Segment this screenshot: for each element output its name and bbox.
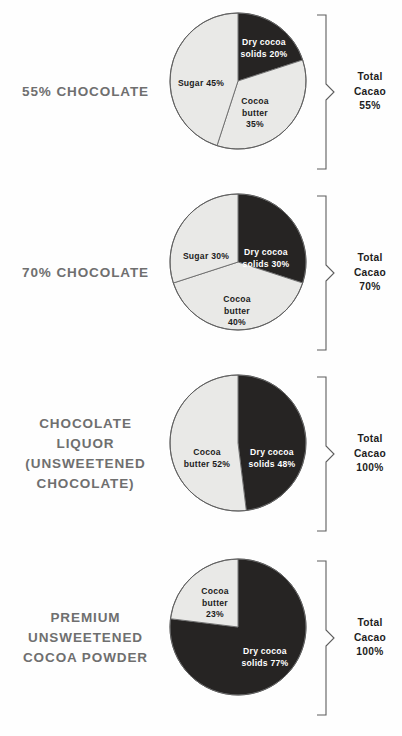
bracket-path	[317, 561, 334, 715]
category-label: PREMIUMUNSWEETENEDCOCOA POWDER	[4, 546, 167, 730]
slice-label-cocoa-butter: Cocoa butter 52%	[177, 447, 237, 470]
total-cacao-line: 55%	[359, 99, 380, 114]
slice-label-dry-cocoa-solids: Dry cocoa solids 77%	[233, 646, 297, 669]
category-label-line: CHOCOLATE	[39, 414, 132, 434]
total-cacao-line: Cacao	[354, 266, 386, 281]
category-label-line: 55% CHOCOLATE	[22, 82, 149, 102]
category-label-line: UNSWEETENED	[28, 628, 143, 648]
category-label-line: PREMIUM	[50, 608, 120, 628]
total-cacao-value: TotalCacao100%	[340, 362, 400, 546]
total-cacao-line: Cacao	[354, 447, 386, 462]
category-label-line: COCOA POWDER	[23, 648, 148, 668]
total-cacao-line: 100%	[356, 461, 383, 476]
pie-slice-cocoa-butter	[170, 375, 246, 511]
slice-label-dry-cocoa-solids: Dry cocoa solids 20%	[233, 37, 295, 60]
chart-row: 55% CHOCOLATEDry cocoa solids 20%Cocoa b…	[0, 0, 402, 184]
chart-row: CHOCOLATELIQUOR(UNSWEETENEDCHOCOLATE)Dry…	[0, 362, 402, 546]
infographic-page: 55% CHOCOLATEDry cocoa solids 20%Cocoa b…	[0, 0, 402, 736]
category-label: 70% CHOCOLATE	[4, 181, 167, 365]
total-cacao-line: 70%	[359, 280, 380, 295]
total-cacao-bracket	[316, 376, 336, 532]
category-label-line: (UNSWEETENED	[25, 454, 145, 474]
pie-slice-dry-cocoa-solids	[238, 375, 306, 510]
bracket-path	[317, 196, 334, 350]
total-cacao-bracket	[316, 14, 336, 170]
category-label: 55% CHOCOLATE	[4, 0, 167, 184]
total-cacao-line: Total	[357, 616, 382, 631]
total-cacao-line: Total	[357, 70, 382, 85]
total-cacao-line: Total	[357, 432, 382, 447]
total-cacao-value: TotalCacao100%	[340, 546, 400, 730]
slice-label-cocoa-butter: Cocoa butter 40%	[213, 294, 261, 329]
category-label: CHOCOLATELIQUOR(UNSWEETENEDCHOCOLATE)	[4, 362, 167, 546]
pie-chart: Dry cocoa solids 48%Cocoa butter 52%	[169, 374, 307, 534]
slice-label-sugar: Sugar 30%	[177, 251, 235, 263]
slice-label-dry-cocoa-solids: Dry cocoa solids 48%	[241, 447, 303, 470]
total-cacao-line: Cacao	[354, 631, 386, 646]
total-cacao-line: Total	[357, 251, 382, 266]
category-label-line: 70% CHOCOLATE	[22, 263, 149, 283]
chart-row: 70% CHOCOLATEDry cocoa solids 30%Cocoa b…	[0, 181, 402, 365]
total-cacao-value: TotalCacao55%	[340, 0, 400, 184]
total-cacao-bracket	[316, 195, 336, 351]
bracket-path	[317, 15, 334, 169]
total-cacao-line: Cacao	[354, 85, 386, 100]
bracket-path	[317, 377, 334, 531]
pie-chart: Dry cocoa solids 30%Cocoa butter 40%Suga…	[169, 193, 307, 353]
total-cacao-line: 100%	[356, 645, 383, 660]
total-cacao-value: TotalCacao70%	[340, 181, 400, 365]
slice-label-cocoa-butter: Cocoa butter 35%	[231, 96, 279, 131]
slice-label-cocoa-butter: Cocoa butter 23%	[191, 586, 239, 621]
slice-label-sugar: Sugar 45%	[172, 78, 230, 90]
total-cacao-bracket	[316, 560, 336, 716]
pie-chart: Dry cocoa solids 20%Cocoa butter 35%Suga…	[169, 12, 307, 172]
pie-chart: Dry cocoa solids 77%Cocoa butter 23%	[169, 558, 307, 718]
slice-label-dry-cocoa-solids: Dry cocoa solids 30%	[235, 247, 297, 270]
category-label-line: CHOCOLATE)	[37, 474, 135, 494]
chart-row: PREMIUMUNSWEETENEDCOCOA POWDERDry cocoa …	[0, 546, 402, 730]
category-label-line: LIQUOR	[57, 434, 115, 454]
